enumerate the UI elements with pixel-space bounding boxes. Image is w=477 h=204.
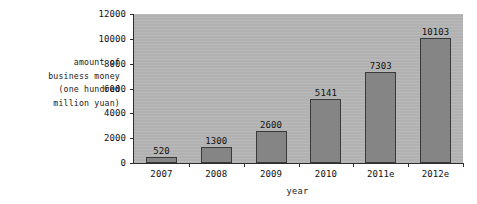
y-axis-tick-label: 12000 bbox=[98, 9, 126, 19]
y-axis-tick-label: 10000 bbox=[98, 34, 126, 44]
x-axis-tick bbox=[189, 163, 190, 167]
bar: 7303 bbox=[365, 72, 396, 163]
y-axis-tick-label: 4000 bbox=[104, 108, 126, 118]
bar: 10103 bbox=[420, 38, 451, 163]
y-axis-tick bbox=[130, 39, 134, 40]
bar-value-label: 5141 bbox=[315, 88, 337, 98]
bar: 2600 bbox=[256, 131, 287, 163]
bar-value-label: 520 bbox=[153, 146, 170, 156]
bar-value-label: 1300 bbox=[205, 136, 227, 146]
x-axis-title: year bbox=[133, 186, 462, 196]
x-axis-tick-label: 2012e bbox=[422, 169, 450, 179]
x-axis-tick-label: 2007 bbox=[150, 169, 172, 179]
x-axis-tick-label: 2008 bbox=[205, 169, 227, 179]
y-axis-tick bbox=[130, 64, 134, 65]
x-axis-tick-label: 2010 bbox=[315, 169, 337, 179]
bar: 5141 bbox=[310, 99, 341, 163]
bar-chart: amount of business money (one hundred mi… bbox=[0, 0, 477, 204]
x-axis-tick bbox=[353, 163, 354, 167]
plot-background-texture bbox=[134, 14, 463, 163]
bar: 1300 bbox=[201, 147, 232, 163]
y-axis-tick-label: 2000 bbox=[104, 133, 126, 143]
y-axis-tick bbox=[130, 138, 134, 139]
bar-value-label: 2600 bbox=[260, 120, 282, 130]
y-axis-tick bbox=[130, 113, 134, 114]
y-axis-tick-label: 0 bbox=[120, 158, 126, 168]
x-axis-tick bbox=[463, 163, 464, 167]
x-axis-tick bbox=[244, 163, 245, 167]
y-axis-title-line-2: business money bbox=[8, 70, 120, 84]
bar: 520 bbox=[146, 157, 177, 163]
bar-value-label: 10103 bbox=[422, 27, 450, 37]
x-axis-tick bbox=[299, 163, 300, 167]
y-axis-tick-label: 6000 bbox=[104, 84, 126, 94]
bar-value-label: 7303 bbox=[370, 61, 392, 71]
x-axis-tick-label: 2009 bbox=[260, 169, 282, 179]
y-axis-tick bbox=[130, 163, 134, 164]
y-axis-tick bbox=[130, 14, 134, 15]
x-axis-tick-label: 2011e bbox=[367, 169, 395, 179]
plot-area: 020004000600080001000012000 200720082009… bbox=[133, 14, 463, 164]
y-axis-tick bbox=[130, 89, 134, 90]
y-axis-tick-label: 8000 bbox=[104, 59, 126, 69]
x-axis-tick bbox=[408, 163, 409, 167]
